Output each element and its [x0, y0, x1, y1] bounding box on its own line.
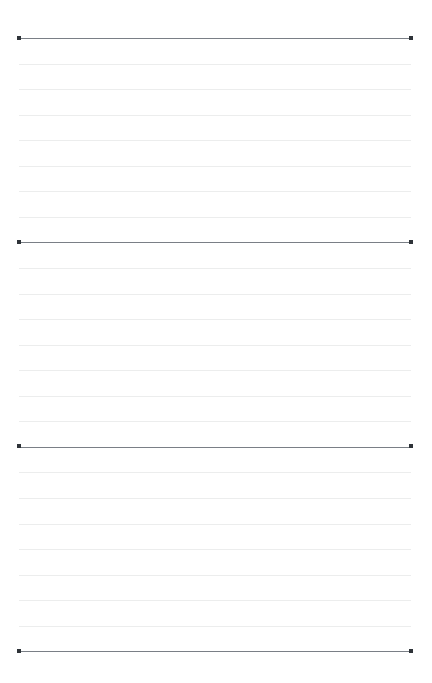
faint-rule-line: [19, 524, 411, 525]
line-endpoint-handle[interactable]: [409, 649, 413, 653]
faint-rule-line: [19, 268, 411, 269]
faint-rule-line: [19, 64, 411, 65]
ruled-paper-sheet: [0, 0, 432, 683]
faint-rule-line: [19, 472, 411, 473]
faint-rule-line: [19, 115, 411, 116]
faint-rule-line: [19, 498, 411, 499]
line-endpoint-handle[interactable]: [17, 36, 21, 40]
faint-rule-line: [19, 421, 411, 422]
faint-rule-line: [19, 575, 411, 576]
faint-rule-line: [19, 345, 411, 346]
faint-rule-line: [19, 396, 411, 397]
faint-rule-line: [19, 294, 411, 295]
major-rule-line[interactable]: [19, 242, 411, 243]
line-endpoint-handle[interactable]: [17, 444, 21, 448]
faint-rule-line: [19, 600, 411, 601]
line-endpoint-handle[interactable]: [409, 240, 413, 244]
line-endpoint-handle[interactable]: [17, 240, 21, 244]
faint-rule-line: [19, 166, 411, 167]
faint-rule-line: [19, 319, 411, 320]
faint-rule-line: [19, 626, 411, 627]
line-endpoint-handle[interactable]: [409, 36, 413, 40]
faint-rule-line: [19, 549, 411, 550]
major-rule-line[interactable]: [19, 651, 411, 652]
major-rule-line[interactable]: [19, 447, 411, 448]
faint-rule-line: [19, 217, 411, 218]
line-endpoint-handle[interactable]: [17, 649, 21, 653]
faint-rule-line: [19, 89, 411, 90]
major-rule-line[interactable]: [19, 38, 411, 39]
faint-rule-line: [19, 370, 411, 371]
line-endpoint-handle[interactable]: [409, 444, 413, 448]
faint-rule-line: [19, 140, 411, 141]
faint-rule-line: [19, 191, 411, 192]
